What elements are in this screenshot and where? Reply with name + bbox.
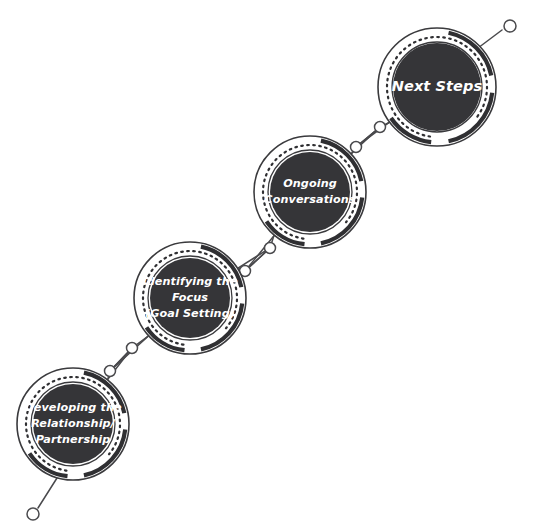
tail-start-marker (27, 478, 57, 520)
process-diagram-canvas: Developing theRelationship/PartnershipId… (0, 0, 543, 532)
developing-the-relationship-partnership-label-line-1: Developing the (24, 401, 122, 414)
nodes-layer: Developing theRelationship/PartnershipId… (17, 28, 496, 480)
developing-the-relationship-partnership-label-line-3: Partnership (36, 433, 111, 446)
connector-ongoing-to-next-steps (351, 122, 395, 163)
tail-start-marker-line (38, 478, 57, 508)
connector-identifying-to-ongoing (238, 236, 279, 282)
connector-developing-to-identifying-knob-a (105, 366, 116, 377)
identifying-the-focus-goal-setting-label-line-2: Focus (172, 291, 208, 304)
tail-end-marker-endpoint (504, 20, 516, 32)
developing-the-relationship-partnership[interactable]: Developing theRelationship/Partnership (17, 368, 129, 480)
ongoing-conversations-label-line-2: Conversations (264, 193, 355, 206)
identifying-the-focus-goal-setting-label-line-1: Identifying the (142, 275, 237, 288)
ongoing-conversations[interactable]: OngoingConversations (254, 136, 366, 248)
connector-developing-to-identifying (105, 336, 154, 388)
identifying-the-focus-goal-setting[interactable]: Identifying theFocus(Goal Setting) (134, 242, 246, 354)
tail-start-marker-endpoint (27, 508, 39, 520)
connector-identifying-to-ongoing-knob-b (265, 243, 276, 254)
next-steps-label-line-1: Next Steps (392, 78, 483, 94)
process-diagram: Developing theRelationship/PartnershipId… (0, 0, 543, 532)
next-steps[interactable]: Next Steps (378, 28, 496, 146)
connector-ongoing-to-next-steps-knob-b (375, 122, 386, 133)
developing-the-relationship-partnership-label-line-2: Relationship/ (31, 417, 116, 430)
tail-end-marker-line (478, 30, 502, 48)
ongoing-conversations-label-line-1: Ongoing (283, 177, 337, 190)
connector-developing-to-identifying-knob-b (127, 343, 138, 354)
tail-end-marker (478, 20, 516, 48)
connector-ongoing-to-next-steps-knob-a (351, 142, 362, 153)
identifying-the-focus-goal-setting-label-line-3: (Goal Setting) (145, 307, 235, 320)
